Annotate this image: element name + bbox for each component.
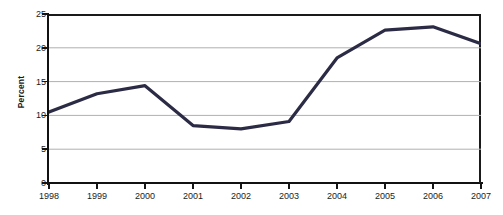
x-axis-tick-label: 2007: [471, 191, 491, 201]
x-axis-tick: [96, 184, 98, 189]
x-axis-tick: [480, 184, 482, 189]
line-chart: Percent 0510152025 199819992000200120022…: [0, 0, 503, 215]
x-axis-tick: [48, 184, 50, 189]
y-axis-tick: [42, 115, 48, 117]
x-axis-tick: [432, 184, 434, 189]
gridlines: [49, 48, 481, 149]
data-series-group: [49, 27, 481, 129]
x-axis-tick-label: 2002: [231, 191, 251, 201]
x-axis-tick-label: 1999: [87, 191, 107, 201]
x-axis-tick-label: 2006: [423, 191, 443, 201]
y-axis-tick: [42, 81, 48, 83]
plot-svg: [49, 14, 481, 183]
x-axis-tick: [336, 184, 338, 189]
x-axis-tick: [384, 184, 386, 189]
y-axis-tick: [42, 47, 48, 49]
x-axis-tick-label: 2003: [279, 191, 299, 201]
y-axis-tick: [42, 148, 48, 150]
plot-area: [49, 14, 481, 183]
x-axis-tick: [192, 184, 194, 189]
data-line: [49, 27, 481, 129]
x-axis-tick: [288, 184, 290, 189]
x-axis-tick-label: 2001: [183, 191, 203, 201]
x-axis-tick-label: 2004: [327, 191, 347, 201]
y-axis-title: Percent: [14, 0, 28, 183]
y-axis-tick: [42, 182, 48, 184]
x-axis-tick: [144, 184, 146, 189]
x-axis-tick-label: 2000: [135, 191, 155, 201]
y-axis-title-text: Percent: [16, 75, 26, 108]
x-axis-tick: [240, 184, 242, 189]
x-axis-tick-label: 2005: [375, 191, 395, 201]
x-axis-tick-label: 1998: [39, 191, 59, 201]
y-axis-tick: [42, 13, 48, 15]
